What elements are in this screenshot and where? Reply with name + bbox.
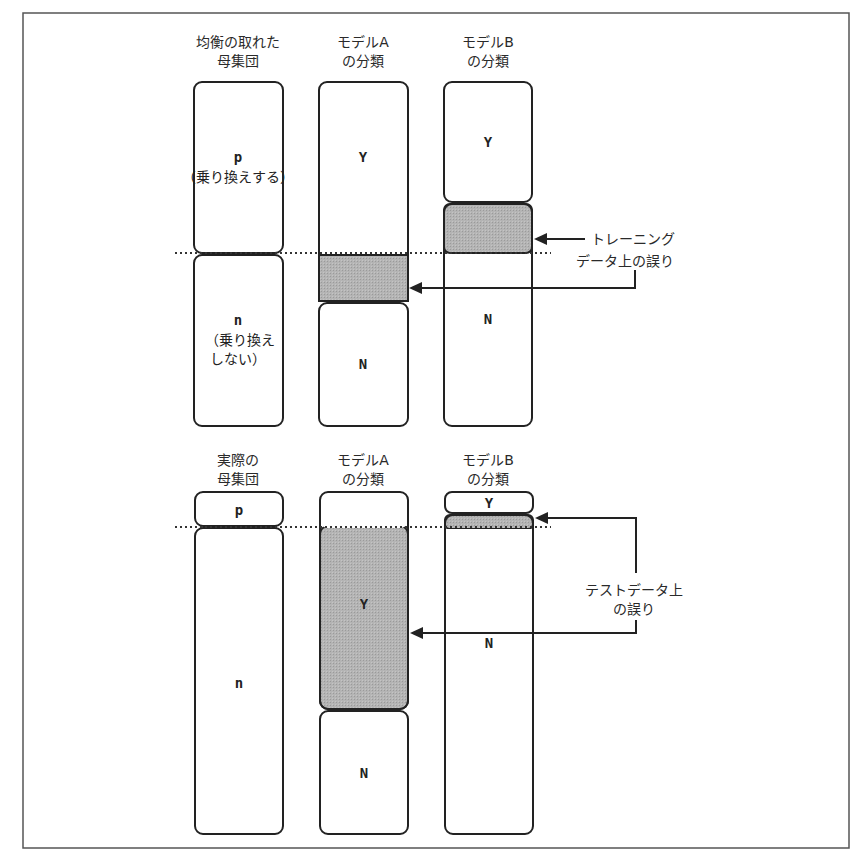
training-error-label: データ上の誤り	[576, 253, 674, 269]
header-line: 実際の	[217, 452, 259, 468]
header-line: モデルA	[337, 34, 389, 50]
header-line: 母集団	[217, 471, 259, 487]
population-p-box	[194, 82, 283, 253]
model-b-y-label: Y	[484, 134, 493, 150]
model-b-n-label: N	[484, 311, 492, 327]
header-line: の分類	[467, 471, 509, 487]
arrow-to-model-a	[421, 620, 636, 633]
header-line: の分類	[342, 53, 384, 69]
model-a-top-fill	[320, 492, 408, 528]
diagram-canvas: 均衡の取れた 母集団 モデルA の分類 モデルB の分類 p （乗り換えする） …	[0, 0, 864, 862]
header-line: の分類	[467, 53, 509, 69]
bottom-section: 実際の 母集団 モデルA の分類 モデルB の分類 p n Y N Y N	[175, 452, 683, 834]
header-line: 母集団	[217, 53, 259, 69]
model-a-n-label: N	[359, 356, 367, 372]
p-label: p	[235, 502, 243, 518]
model-b-error-region	[445, 515, 533, 529]
test-error-label: の誤り	[613, 601, 655, 617]
model-a-error-region	[320, 526, 408, 709]
model-a-error-region	[319, 255, 408, 301]
arrow-head-icon	[410, 627, 423, 639]
arrow-to-model-b	[546, 518, 636, 573]
arrow-head-icon	[409, 282, 422, 294]
n-description: しない）	[210, 351, 266, 367]
training-error-label: トレーニング	[591, 231, 675, 247]
arrow-head-icon	[534, 233, 547, 245]
header-actual-population: 実際の 母集団	[217, 452, 259, 487]
model-b-y-label: Y	[485, 495, 494, 511]
header-balanced-population: 均衡の取れた 母集団	[196, 34, 280, 69]
model-b-n-box	[445, 515, 533, 834]
top-section: 均衡の取れた 母集団 モデルA の分類 モデルB の分類 p （乗り換えする） …	[175, 34, 675, 426]
model-b-n-fill	[445, 529, 533, 541]
header-line: モデルA	[337, 452, 389, 468]
header-model-b: モデルB の分類	[462, 34, 514, 69]
header-model-a: モデルA の分類	[337, 34, 389, 69]
header-model-b: モデルB の分類	[462, 452, 514, 487]
figure-frame	[23, 13, 849, 848]
n-label: n	[235, 675, 243, 691]
model-a-y-label: Y	[360, 596, 369, 612]
arrow-head-icon	[535, 512, 548, 524]
test-error-label: テストデータ上	[585, 582, 683, 598]
n-label: n	[234, 312, 242, 328]
header-line: モデルB	[462, 452, 514, 468]
model-b-error-region	[444, 204, 532, 253]
p-description: （乗り換えする）	[182, 169, 294, 185]
header-line: モデルB	[462, 34, 514, 50]
arrow-to-model-a	[420, 270, 635, 288]
p-label: p	[234, 149, 242, 165]
header-line: の分類	[342, 471, 384, 487]
model-a-n-label: N	[360, 765, 368, 781]
model-a-y-label: Y	[359, 149, 368, 165]
header-model-a: モデルA の分類	[337, 452, 389, 487]
n-description: （乗り換え	[205, 332, 275, 348]
header-line: 均衡の取れた	[196, 34, 280, 50]
model-b-n-label: N	[485, 635, 493, 651]
